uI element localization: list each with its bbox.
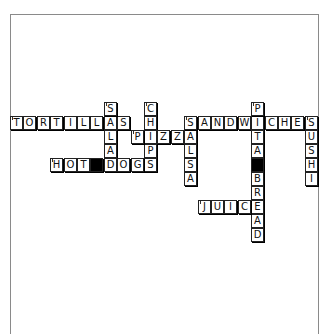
- cell-letter: S: [120, 117, 126, 128]
- crossword-cell[interactable]: L: [77, 116, 90, 130]
- crossword-cell[interactable]: I: [305, 172, 318, 186]
- crossword-cell[interactable]: A: [251, 144, 264, 158]
- crossword-cell[interactable]: R: [251, 186, 264, 200]
- crossword-cell[interactable]: S: [305, 144, 318, 158]
- crossword-cell[interactable]: A: [184, 130, 197, 144]
- clue-number-mark: [186, 117, 189, 120]
- cell-letter: Z: [174, 131, 181, 142]
- crossword-cell[interactable]: L: [184, 144, 197, 158]
- crossword-cell[interactable]: P: [131, 130, 144, 144]
- crossword-cell[interactable]: O: [64, 158, 77, 172]
- crossword-cell[interactable]: E: [251, 200, 264, 214]
- crossword-cell[interactable]: D: [224, 116, 237, 130]
- crossword-cell[interactable]: L: [90, 116, 103, 130]
- crossword-cell[interactable]: A: [184, 172, 197, 186]
- crossword-cell[interactable]: Z: [157, 130, 170, 144]
- crossword-cell[interactable]: C: [144, 102, 157, 116]
- cell-letter: I: [69, 117, 72, 128]
- crossword-cell[interactable]: S: [184, 158, 197, 172]
- crossword-cell[interactable]: U: [211, 200, 224, 214]
- crossword-cell[interactable]: Z: [171, 130, 184, 144]
- cell-letter: E: [294, 117, 300, 128]
- crossword-cell[interactable]: S: [305, 116, 318, 130]
- crossword-cell[interactable]: J: [198, 200, 211, 214]
- cell-letter: S: [308, 145, 314, 156]
- crossword-cell[interactable]: H: [278, 116, 291, 130]
- cell-letter: T: [53, 117, 59, 128]
- cell-letter: G: [134, 159, 142, 170]
- crossword-cell[interactable]: D: [251, 228, 264, 242]
- crossword-cell[interactable]: O: [23, 116, 36, 130]
- clue-number-mark: [307, 117, 310, 120]
- crossword-cell[interactable]: P: [251, 102, 264, 116]
- crossword-cell[interactable]: U: [305, 130, 318, 144]
- crossword-cell[interactable]: D: [104, 158, 117, 172]
- cell-letter: R: [40, 117, 47, 128]
- cell-letter: O: [120, 159, 128, 170]
- cell-letter: U: [308, 131, 315, 142]
- cell-letter: T: [80, 159, 86, 170]
- crossword-cell[interactable]: B: [251, 172, 264, 186]
- cell-letter: A: [187, 173, 194, 184]
- cell-letter: A: [107, 145, 114, 156]
- crossword-cell[interactable]: T: [251, 130, 264, 144]
- crossword-cell[interactable]: H: [144, 116, 157, 130]
- crossword-cell[interactable]: T: [10, 116, 23, 130]
- cell-letter: T: [254, 131, 260, 142]
- cell-letter: S: [187, 159, 193, 170]
- crossword-cell[interactable]: R: [37, 116, 50, 130]
- crossword-cell[interactable]: I: [251, 116, 264, 130]
- crossword-cell[interactable]: O: [117, 158, 130, 172]
- black-cell: [90, 158, 103, 172]
- crossword-cell[interactable]: A: [104, 144, 117, 158]
- crossword-cell[interactable]: L: [104, 130, 117, 144]
- cell-letter: A: [107, 117, 114, 128]
- cell-letter: J: [203, 201, 206, 212]
- crossword-cell[interactable]: T: [50, 116, 63, 130]
- crossword-cell[interactable]: T: [77, 158, 90, 172]
- cell-letter: H: [308, 159, 316, 170]
- crossword-cell[interactable]: A: [198, 116, 211, 130]
- cell-letter: A: [254, 145, 261, 156]
- cell-letter: U: [214, 201, 221, 212]
- crossword-cell[interactable]: A: [251, 214, 264, 228]
- cell-letter: L: [81, 117, 87, 128]
- crossword-cell[interactable]: N: [211, 116, 224, 130]
- cell-letter: A: [187, 131, 194, 142]
- cell-letter: I: [229, 201, 232, 212]
- clue-number-mark: [133, 131, 136, 134]
- crossword-cell[interactable]: W: [238, 116, 251, 130]
- crossword-cell[interactable]: E: [291, 116, 304, 130]
- cell-letter: D: [227, 117, 235, 128]
- crossword-cell[interactable]: I: [144, 130, 157, 144]
- cell-letter: D: [254, 229, 262, 240]
- cell-letter: I: [256, 117, 259, 128]
- clue-number-mark: [12, 117, 15, 120]
- crossword-cell[interactable]: S: [104, 102, 117, 116]
- cell-letter: L: [188, 145, 194, 156]
- crossword-cell[interactable]: S: [184, 116, 197, 130]
- crossword-cell[interactable]: S: [117, 116, 130, 130]
- crossword-cell[interactable]: I: [224, 200, 237, 214]
- crossword-cell[interactable]: H: [50, 158, 63, 172]
- black-cell: [251, 158, 264, 172]
- cell-letter: O: [67, 159, 75, 170]
- clue-number-mark: [253, 103, 256, 106]
- crossword-cell[interactable]: C: [238, 200, 251, 214]
- crossword-cell[interactable]: H: [305, 158, 318, 172]
- cell-letter: C: [268, 117, 275, 128]
- cell-letter: L: [108, 131, 114, 142]
- crossword-cell[interactable]: P: [144, 144, 157, 158]
- cell-letter: B: [254, 173, 261, 184]
- crossword-cell[interactable]: C: [265, 116, 278, 130]
- crossword-cell[interactable]: I: [64, 116, 77, 130]
- cell-letter: R: [254, 187, 261, 198]
- crossword-cell[interactable]: G: [131, 158, 144, 172]
- cell-letter: O: [26, 117, 34, 128]
- cell-letter: N: [214, 117, 221, 128]
- cell-letter: E: [254, 201, 260, 212]
- cell-letter: L: [94, 117, 100, 128]
- crossword-cell[interactable]: S: [144, 158, 157, 172]
- crossword-cell[interactable]: A: [104, 116, 117, 130]
